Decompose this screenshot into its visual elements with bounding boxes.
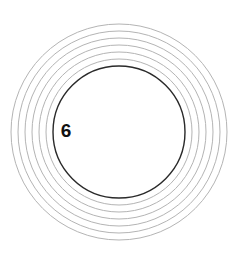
figure-canvas: 6 xyxy=(0,0,241,263)
circle-number-label: 6 xyxy=(61,120,72,141)
concentric-circles-diagram: 6 xyxy=(0,0,241,263)
background-rect xyxy=(0,0,241,263)
